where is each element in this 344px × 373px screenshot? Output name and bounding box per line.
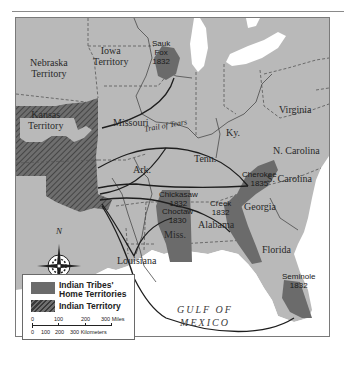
- label-virginia: Virginia: [279, 104, 312, 115]
- tribe-name: Fox: [152, 48, 170, 57]
- label-sauk-fox: Sauk Fox 1832: [152, 39, 170, 66]
- label-cherokee: Cherokee 1835: [242, 170, 277, 188]
- scale-km-0: 0: [31, 329, 34, 335]
- tribe-name: Seminole: [282, 272, 315, 281]
- scale-tick: [58, 323, 59, 326]
- legend-text: Home Territories: [59, 290, 126, 299]
- scale-km-300: 300 Kilometers: [70, 329, 107, 335]
- label-tennessee: Tenn.: [194, 153, 216, 164]
- tribe-name: Creek: [210, 199, 231, 208]
- label-seminole: Seminole 1832: [282, 272, 315, 290]
- scale-km-100: 100: [41, 329, 50, 335]
- label-choctaw: Choctaw 1830: [162, 207, 193, 225]
- scale-miles-300: 300 Miles: [101, 316, 125, 322]
- scale-tick: [111, 323, 112, 326]
- scale-km-200: 200: [55, 329, 64, 335]
- label-line: Territory: [30, 68, 68, 79]
- legend-swatch-indian-territory: [31, 300, 55, 312]
- top-rule: [12, 11, 344, 12]
- tribe-name: Sauk: [152, 39, 170, 48]
- label-chickasaw: Chickasaw 1832: [159, 190, 198, 208]
- scale-tick: [85, 323, 86, 326]
- label-line: GULF OF: [177, 303, 233, 316]
- tribe-year: 1832: [152, 57, 170, 66]
- label-nebraska-territory: Nebraska Territory: [30, 57, 68, 79]
- label-line: MEXICO: [177, 316, 233, 329]
- label-iowa-territory: Iowa Territory: [93, 45, 128, 67]
- label-line: Nebraska: [30, 57, 68, 68]
- label-line: Territory: [93, 56, 128, 67]
- compass-north-label: N: [56, 226, 62, 236]
- label-arkansas: Ark.: [133, 164, 151, 175]
- tribe-year: 1832: [210, 208, 231, 217]
- label-line: Iowa: [93, 45, 128, 56]
- tribe-name: Cherokee: [242, 170, 277, 179]
- tribe-name: Choctaw: [162, 207, 193, 216]
- scale-miles-200: 200: [81, 316, 90, 322]
- legend-label-indian-territory: Indian Territory: [59, 302, 121, 311]
- map-legend: Indian Tribes' Home Territories Indian T…: [22, 274, 135, 340]
- label-mississippi: Miss.: [164, 229, 186, 240]
- label-louisiana: Louisiana: [117, 255, 156, 266]
- label-line: Territory: [28, 120, 63, 131]
- scale-miles-100: 100: [54, 316, 63, 322]
- scale-tick: [32, 323, 33, 328]
- legend-label-home-territories: Indian Tribes' Home Territories: [59, 281, 126, 299]
- label-gulf-of-mexico: GULF OF MEXICO: [177, 303, 233, 329]
- label-line: Kansas: [28, 109, 63, 120]
- legend-swatch-home-territories: [31, 282, 55, 294]
- tribe-year: 1832: [282, 281, 315, 290]
- label-creek: Creek 1832: [210, 199, 231, 217]
- label-kansas-territory: Kansas Territory: [28, 109, 63, 131]
- label-alabama: Alabama: [198, 219, 234, 230]
- scale-miles-0: 0: [31, 316, 34, 322]
- label-kentucky: Ky.: [226, 127, 240, 138]
- label-florida: Florida: [262, 244, 291, 255]
- tribe-name: Chickasaw: [159, 190, 198, 199]
- label-georgia: Georgia: [244, 201, 276, 212]
- label-n-carolina: N. Carolina: [273, 145, 320, 156]
- tribe-year: 1835: [242, 179, 277, 188]
- scale-bar: [32, 325, 112, 326]
- tribe-year: 1830: [162, 216, 193, 225]
